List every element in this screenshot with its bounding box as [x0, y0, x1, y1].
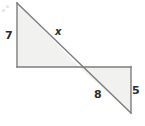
geometry-figure: 7 x 8 5 [0, 0, 145, 126]
label-left-side-7: 7 [5, 30, 13, 41]
label-right-side-5: 5 [132, 85, 140, 96]
label-bottom-side-8: 8 [94, 89, 102, 100]
triangles-svg [0, 0, 145, 126]
label-hypotenuse-x: x [55, 27, 61, 37]
